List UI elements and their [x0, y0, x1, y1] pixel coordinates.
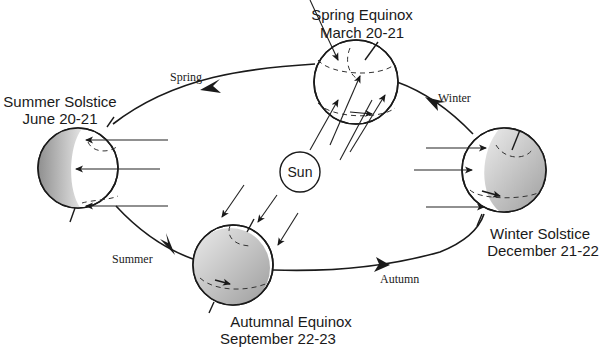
- summer-solstice-date: June 20-21: [22, 110, 97, 127]
- arrow-spring-icon: [200, 79, 221, 93]
- sun: Sun: [280, 152, 320, 192]
- season-label-autumn: Autumn: [380, 272, 419, 286]
- season-label-winter: Winter: [438, 91, 471, 105]
- earth-winter-solstice: [414, 128, 550, 226]
- season-label-spring: Spring: [170, 70, 202, 84]
- summer-solstice-name: Summer Solstice: [3, 93, 116, 110]
- seasons-diagram: Sun Spring Equinox March 20-21: [0, 0, 609, 357]
- spring-equinox-name: Spring Equinox: [311, 6, 413, 23]
- spring-equinox-date: March 20-21: [320, 24, 404, 41]
- autumnal-equinox-date: September 22-23: [220, 330, 336, 347]
- winter-solstice-name: Winter Solstice: [490, 225, 590, 242]
- autumnal-equinox-name: Autumnal Equinox: [230, 313, 352, 330]
- earth-autumnal-equinox: [190, 185, 298, 313]
- season-label-summer: Summer: [112, 252, 153, 266]
- sun-label: Sun: [288, 164, 313, 180]
- earth-summer-solstice: [38, 117, 168, 222]
- winter-solstice-date: December 21-22: [487, 242, 599, 259]
